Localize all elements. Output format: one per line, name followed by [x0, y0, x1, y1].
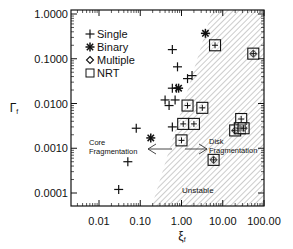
square-icon: [86, 69, 94, 77]
legend-item-single: Single: [86, 28, 128, 40]
legend-label: NRT: [97, 67, 120, 79]
unstable-label: Unstable: [182, 186, 214, 195]
disk-label-line2: Fragmentation: [209, 146, 257, 155]
y-axis-label: Γf: [10, 101, 19, 115]
legend-label: Multiple: [97, 54, 135, 66]
y-tick-label: 0.1000: [34, 53, 68, 65]
legend-label: Single: [97, 28, 128, 40]
y-tick-label: 0.0100: [34, 98, 68, 110]
x-axis-subscript: f: [184, 236, 186, 243]
legend-item-multiple: Multiple: [87, 54, 135, 66]
x-tick-label: 0.01: [88, 215, 109, 227]
scatter-chart: 1.00000.10000.01000.00100.00010.010.101.…: [0, 0, 293, 249]
legend: SingleBinaryMultipleNRT: [86, 28, 135, 79]
x-tick-label: 10.00: [209, 215, 237, 227]
legend-label: Binary: [97, 41, 129, 53]
diamond-marker: [87, 57, 94, 64]
disk-label: Disk: [209, 137, 224, 146]
legend-item-binary: Binary: [86, 41, 129, 53]
x-tick-label: 100.00: [247, 215, 281, 227]
y-tick-label: 0.0010: [34, 142, 68, 154]
y-tick-label: 1.0000: [34, 8, 68, 20]
x-axis-label: ξf: [178, 229, 185, 243]
plot-area: [114, 10, 264, 206]
core-label-line2: Fragmentation: [89, 147, 137, 156]
y-tick-label: 0.0001: [34, 187, 68, 199]
x-tick-label: 1.00: [171, 215, 192, 227]
core-label: Core: [89, 138, 105, 147]
y-axis-subscript: f: [16, 108, 18, 115]
x-tick-label: 0.10: [130, 215, 151, 227]
legend-item-nrt: NRT: [86, 67, 120, 79]
